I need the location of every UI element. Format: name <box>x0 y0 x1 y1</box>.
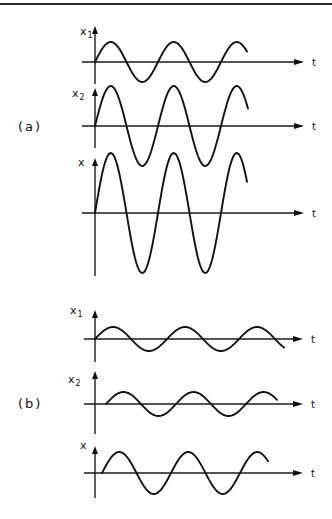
t-axis-arrow-icon <box>294 123 304 129</box>
part-a: (a) x1 t x2 t <box>18 25 316 276</box>
t-axis-label: t <box>312 208 316 219</box>
y-axis-arrow-icon <box>92 158 98 166</box>
t-axis-arrow-icon <box>294 59 304 65</box>
t-axis-arrow-icon <box>293 470 303 476</box>
t-axis-arrow-icon <box>293 401 303 407</box>
y-axis-arrow-icon <box>92 446 98 454</box>
y-axis-arrow-icon <box>92 26 98 34</box>
y-axis-arrow-icon <box>92 88 98 96</box>
t-axis-label: t <box>311 468 315 479</box>
part-a-label: (a) <box>18 119 42 134</box>
part-b: (b) x1 t x2 t <box>18 304 315 498</box>
t-axis-label: t <box>312 57 316 68</box>
t-axis-arrow-icon <box>294 210 304 216</box>
part-a-x1-panel: x1 t <box>80 25 316 84</box>
y-axis-label: x <box>80 439 87 452</box>
y-axis-arrow-icon <box>92 371 98 379</box>
t-axis-label: t <box>311 399 315 410</box>
y-axis-label: x <box>78 156 85 169</box>
y-axis-label: x2 <box>72 87 85 102</box>
superposition-figure: (a) x1 t x2 t <box>0 0 332 519</box>
y-axis-label: x1 <box>70 304 83 319</box>
part-b-x1-panel: x1 t <box>70 304 315 362</box>
t-axis-arrow-icon <box>293 336 303 342</box>
part-b-x2-panel: x2 t <box>68 371 315 434</box>
y-axis-arrow-icon <box>92 310 98 318</box>
part-a-sum-panel: x t <box>78 153 316 276</box>
t-axis-label: t <box>312 121 316 132</box>
y-axis-label: x1 <box>80 25 93 40</box>
y-axis-label: x2 <box>68 373 81 388</box>
part-b-label: (b) <box>18 396 42 411</box>
part-b-sum-panel: x t <box>80 439 315 498</box>
t-axis-label: t <box>311 334 315 345</box>
